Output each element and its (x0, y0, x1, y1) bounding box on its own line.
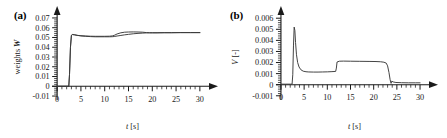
svg-text:-0.01: -0.01 (33, 92, 50, 101)
svg-text:0.07: 0.07 (35, 14, 49, 23)
chart-panel-a: (a) 051015202530-0.0100.010.020.030.040.… (0, 0, 223, 138)
svg-text:15: 15 (346, 93, 354, 102)
y-axis-label: weights W (13, 39, 22, 75)
svg-text:0.06: 0.06 (35, 24, 49, 33)
svg-text:0.01: 0.01 (35, 72, 49, 81)
svg-text:0: 0 (46, 82, 50, 91)
weight-curve-lower (57, 33, 200, 87)
figure-container: (a) 051015202530-0.0100.010.020.030.040.… (0, 0, 447, 138)
svg-text:0.005: 0.005 (255, 25, 273, 34)
y-axis-label: V [-] (231, 49, 240, 65)
svg-text:0.002: 0.002 (255, 58, 273, 67)
chart-panel-b: (b) 051015202530-0.00100.0010.0020.0030.… (224, 0, 447, 138)
x-axis-label: t [s] (348, 122, 361, 131)
svg-text:30: 30 (416, 93, 424, 102)
svg-text:15: 15 (124, 95, 132, 104)
svg-text:0.001: 0.001 (255, 70, 273, 79)
plot-svg-b: 051015202530-0.00100.0010.0020.0030.0040… (224, 0, 447, 138)
svg-text:0.006: 0.006 (255, 14, 273, 23)
svg-text:0.04: 0.04 (35, 43, 49, 52)
svg-text:30: 30 (196, 95, 204, 104)
weight-curve-upper (57, 32, 200, 86)
svg-text:0.02: 0.02 (35, 63, 49, 72)
svg-text:0: 0 (269, 81, 273, 90)
svg-text:0.03: 0.03 (35, 53, 49, 62)
svg-text:20: 20 (370, 93, 378, 102)
svg-text:0: 0 (279, 93, 283, 102)
x-axis-label: t [s] (126, 122, 139, 131)
svg-text:10: 10 (101, 95, 109, 104)
svg-text:5: 5 (79, 95, 83, 104)
svg-text:-0.001: -0.001 (252, 92, 273, 101)
svg-text:0.003: 0.003 (255, 47, 273, 56)
svg-text:0.004: 0.004 (255, 36, 273, 45)
svg-text:25: 25 (172, 95, 180, 104)
svg-text:5: 5 (302, 93, 306, 102)
svg-text:25: 25 (393, 93, 401, 102)
plot-svg-a: 051015202530-0.0100.010.020.030.040.050.… (0, 0, 223, 138)
svg-text:10: 10 (323, 93, 331, 102)
svg-text:0.05: 0.05 (35, 33, 49, 42)
v-curve (281, 27, 420, 84)
svg-text:20: 20 (148, 95, 156, 104)
